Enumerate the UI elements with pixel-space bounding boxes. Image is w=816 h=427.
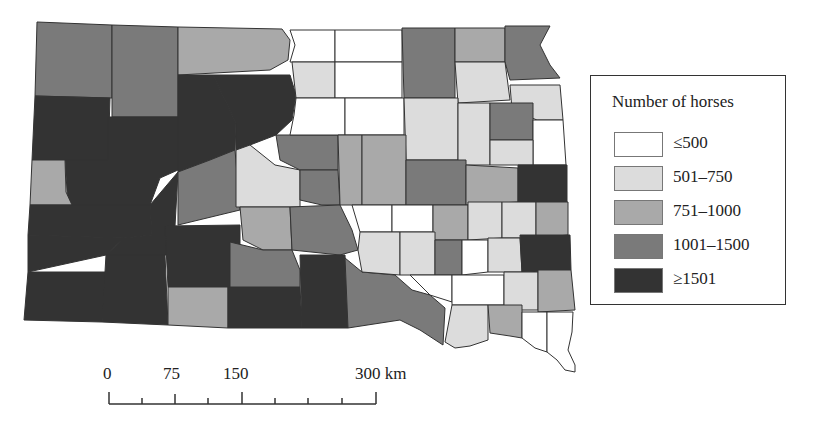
scale-label-0: 0 <box>103 364 112 384</box>
county <box>502 202 536 238</box>
county <box>522 312 547 352</box>
county <box>445 305 488 348</box>
county <box>402 28 455 98</box>
legend-item-751-1000: 751–1000 <box>614 200 784 226</box>
county <box>345 98 404 135</box>
county <box>455 28 505 62</box>
county <box>240 207 292 250</box>
legend-swatch <box>614 166 663 191</box>
county <box>468 202 502 240</box>
county <box>165 225 240 287</box>
legend-swatch <box>614 132 663 157</box>
county <box>362 135 406 205</box>
legend-label: 501–750 <box>673 167 733 187</box>
county <box>533 120 566 165</box>
county <box>290 98 345 135</box>
county <box>488 238 522 272</box>
county <box>290 30 335 62</box>
legend-label: 751–1000 <box>673 201 741 221</box>
county <box>406 160 466 205</box>
county <box>520 235 571 272</box>
legend: Number of horses ≤500 501–750 751–1000 1… <box>590 75 786 305</box>
county <box>228 287 302 328</box>
county <box>35 22 112 98</box>
legend-item-ge1501: ≥1501 <box>614 268 784 294</box>
county <box>536 202 568 238</box>
county <box>32 96 110 160</box>
county <box>30 160 72 205</box>
county <box>24 272 106 322</box>
scale-label-150: 150 <box>223 364 249 384</box>
county <box>338 135 362 205</box>
scale-label-75: 75 <box>163 364 180 384</box>
county <box>292 62 335 98</box>
county <box>466 165 518 205</box>
county <box>505 26 560 80</box>
county <box>178 27 290 75</box>
county <box>538 270 575 312</box>
county <box>290 205 358 255</box>
county <box>300 255 348 328</box>
county <box>462 240 488 275</box>
county <box>276 135 338 170</box>
legend-swatch <box>614 268 663 293</box>
county <box>518 165 567 202</box>
county <box>358 232 400 275</box>
legend-item-501-750: 501–750 <box>614 166 784 192</box>
county <box>168 287 228 328</box>
scale-bar-ruler <box>100 388 390 408</box>
scale-label-300: 300 km <box>355 364 406 384</box>
county <box>490 140 533 165</box>
county <box>300 170 340 205</box>
legend-label: 1001–1500 <box>673 235 750 255</box>
county <box>112 25 178 117</box>
county <box>102 255 168 325</box>
county <box>352 205 392 232</box>
county <box>490 103 533 140</box>
legend-title: Number of horses <box>612 92 734 112</box>
county <box>547 312 575 372</box>
legend-swatch <box>614 200 663 225</box>
county <box>455 62 510 103</box>
county <box>392 205 433 232</box>
county <box>435 240 462 275</box>
legend-item-1001-1500: 1001–1500 <box>614 234 784 260</box>
county <box>335 30 402 62</box>
legend-item-le500: ≤500 <box>614 132 784 158</box>
legend-label: ≥1501 <box>673 269 716 289</box>
county <box>452 275 504 305</box>
county <box>433 205 468 240</box>
county-polygons <box>24 22 575 372</box>
county <box>335 62 402 98</box>
county <box>28 205 152 238</box>
county <box>458 103 490 165</box>
legend-label: ≤500 <box>673 133 708 153</box>
county <box>488 305 522 338</box>
county <box>404 98 458 160</box>
county <box>400 232 435 275</box>
county <box>504 272 538 310</box>
legend-swatch <box>614 234 663 259</box>
